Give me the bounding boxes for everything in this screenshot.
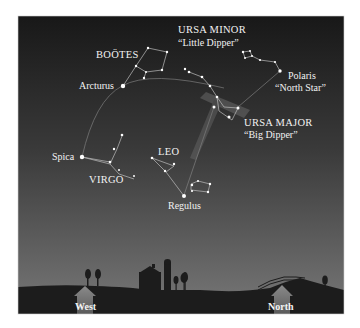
label-little-dipper: “Little Dipper” bbox=[178, 37, 239, 48]
star-spica bbox=[80, 155, 84, 159]
label-ursa-minor: URSA MINOR bbox=[178, 24, 246, 35]
label-regulus: Regulus bbox=[168, 200, 201, 211]
star-arcturus bbox=[121, 84, 125, 88]
label-bootes: BOÖTES bbox=[96, 49, 139, 60]
label-north: North bbox=[268, 301, 294, 312]
label-ursa-major: URSA MAJOR bbox=[244, 117, 313, 128]
barn bbox=[139, 272, 161, 292]
silo bbox=[164, 262, 171, 292]
label-arcturus: Arcturus bbox=[79, 80, 114, 91]
night-sky bbox=[18, 16, 344, 314]
label-virgo: VIRGO bbox=[89, 174, 124, 185]
star-regulus bbox=[182, 194, 186, 198]
label-north-star: “North Star” bbox=[275, 82, 326, 93]
label-spica: Spica bbox=[52, 151, 75, 162]
label-big-dipper: “Big Dipper” bbox=[244, 129, 298, 140]
label-polaris: Polaris bbox=[288, 70, 316, 81]
label-leo: LEO bbox=[158, 146, 179, 157]
star-polaris bbox=[278, 69, 281, 72]
label-west: West bbox=[75, 301, 97, 312]
star-chart: BOÖTES Arcturus URSA MINOR “Little Dippe… bbox=[0, 0, 360, 328]
